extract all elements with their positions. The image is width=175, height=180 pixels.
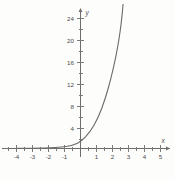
x-tick-label-1: 1	[95, 153, 99, 160]
y-tick-label-20: 20	[67, 37, 74, 44]
y-tick-label-12: 12	[67, 81, 74, 88]
x-axis-label: x	[160, 137, 165, 144]
exponential-function-plot: -4 -3 -2 -1 1 2 3 4 5 4 8 12 16 20 24 x …	[0, 0, 175, 180]
x-tick-label-3: 3	[127, 153, 131, 160]
x-tick-label-2: 2	[111, 153, 115, 160]
y-tick-label-24: 24	[67, 15, 74, 22]
x-tick-label--3: -3	[30, 153, 36, 160]
x-tick-label--2: -2	[46, 153, 52, 160]
x-tick-label--1: -1	[62, 153, 68, 160]
x-tick-label-4: 4	[143, 153, 147, 160]
y-tick-label-8: 8	[71, 103, 75, 110]
y-tick-label-16: 16	[67, 59, 74, 66]
chart-screenshot: -4 -3 -2 -1 1 2 3 4 5 4 8 12 16 20 24 x …	[0, 0, 175, 180]
x-axis-arrow-icon	[166, 147, 170, 151]
y-axis-label: y	[84, 9, 89, 17]
y-axis-arrow-icon	[79, 8, 83, 12]
x-tick-label-5: 5	[159, 153, 163, 160]
y-tick-label-4: 4	[71, 125, 75, 132]
x-tick-label--4: -4	[14, 153, 20, 160]
